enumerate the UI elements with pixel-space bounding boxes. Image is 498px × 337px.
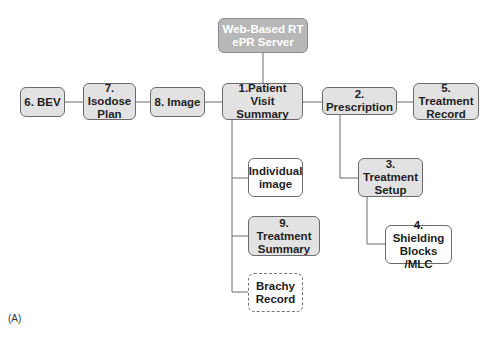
node-isodose-plan: 7. Isodose Plan [83, 83, 136, 120]
edge-prescription-setup [340, 115, 358, 178]
node-brachy-record: Brachy Record [248, 273, 303, 312]
workflow-diagram: Web-Based RT ePR Server 6. BEV 7. Isodos… [0, 0, 498, 337]
node-treatment-record: 5. Treatment Record [413, 83, 479, 120]
node-image: 8. Image [150, 87, 205, 117]
edge-patient-branch [232, 120, 248, 292]
node-prescription: 2. Prescription [322, 87, 397, 115]
node-treatment-summary: 9. Treatment Summary [248, 216, 320, 256]
node-individual-image: Individual image [248, 158, 303, 197]
edge-setup-shielding [367, 197, 385, 244]
figure-caption: (A) [8, 313, 21, 324]
node-bev: 6. BEV [20, 87, 65, 117]
node-treatment-setup: 3. Treatment Setup [358, 158, 423, 197]
node-patient-visit-summary: 1.Patient Visit Summary [222, 83, 303, 120]
node-shielding-blocks-mlc: 4. Shielding Blocks /MLC [385, 225, 452, 264]
node-epr-server: Web-Based RT ePR Server [218, 18, 308, 53]
